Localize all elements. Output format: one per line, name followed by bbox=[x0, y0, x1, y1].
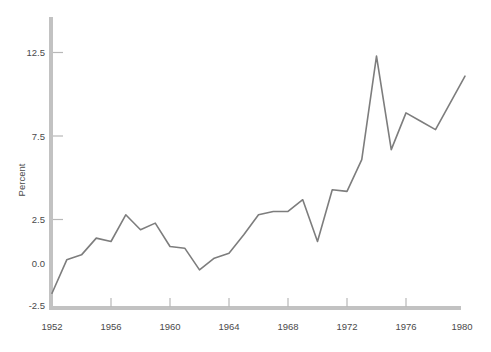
x-tick-label-1964: 1964 bbox=[218, 321, 239, 332]
x-tick-label-1968: 1968 bbox=[277, 321, 298, 332]
x-tick-label-1952: 1952 bbox=[41, 321, 62, 332]
chart-container: 12.5 7.5 2.5 0.0 -2.5 1952 1956 1960 196… bbox=[0, 0, 491, 352]
data-series-line bbox=[52, 56, 465, 293]
y-tick-label-2.5: 2.5 bbox=[32, 214, 45, 225]
y-tick-label--2.5: -2.5 bbox=[29, 300, 45, 311]
y-tick-label-12.5: 12.5 bbox=[27, 47, 46, 58]
y-tick-label-0.0: 0.0 bbox=[32, 258, 45, 269]
x-tick-label-1976: 1976 bbox=[395, 321, 416, 332]
y-axis-title: Percent bbox=[16, 163, 27, 196]
x-tick-label-1960: 1960 bbox=[159, 321, 180, 332]
x-tick-marks bbox=[111, 298, 406, 307]
x-tick-label-1972: 1972 bbox=[336, 321, 357, 332]
line-chart: 12.5 7.5 2.5 0.0 -2.5 1952 1956 1960 196… bbox=[0, 0, 491, 352]
x-tick-label-1980: 1980 bbox=[451, 321, 472, 332]
y-axis-spine bbox=[49, 17, 53, 310]
x-tick-label-1956: 1956 bbox=[100, 321, 121, 332]
y-tick-label-7.5: 7.5 bbox=[32, 131, 45, 142]
y-tick-marks bbox=[53, 53, 63, 220]
